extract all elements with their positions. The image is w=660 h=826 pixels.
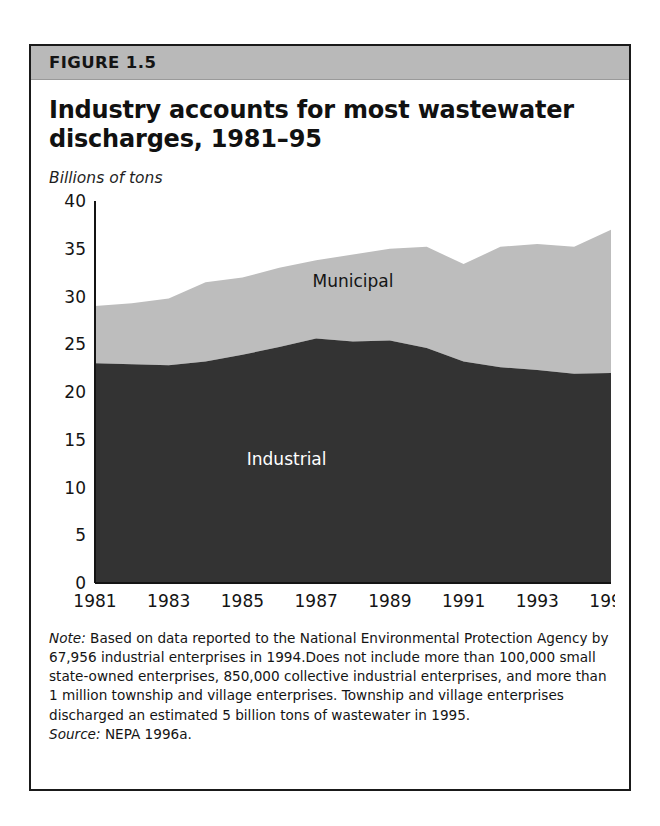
source-paragraph: Source: NEPA 1996a. (49, 725, 611, 744)
series-label-industrial: Industrial (247, 448, 327, 468)
note-body-text: Based on data reported to the National E… (49, 630, 608, 723)
industrial-area (95, 338, 611, 582)
x-tick-label: 1983 (147, 591, 190, 611)
figure-notes: Note: Based on data reported to the Nati… (31, 621, 629, 745)
figure-header-bar: FIGURE 1.5 (31, 46, 629, 80)
x-tick-label: 1993 (516, 591, 559, 611)
x-tick-label: 1987 (295, 591, 338, 611)
y-tick-label: 35 (64, 238, 86, 258)
figure-body: Industry accounts for most wastewater di… (31, 80, 629, 621)
figure-card: FIGURE 1.5 Industry accounts for most wa… (29, 44, 631, 791)
figure-title: Industry accounts for most wastewater di… (49, 96, 611, 155)
x-tick-label: 1981 (73, 591, 116, 611)
source-body-text: NEPA 1996a. (101, 726, 192, 742)
series-label-municipal: Municipal (313, 270, 394, 290)
y-tick-label: 20 (64, 382, 86, 402)
note-paragraph: Note: Based on data reported to the Nati… (49, 629, 611, 725)
x-tick-label: 1991 (442, 591, 485, 611)
y-tick-label: 15 (64, 429, 86, 449)
x-tick-label: 1985 (221, 591, 264, 611)
y-tick-label: 30 (64, 286, 86, 306)
source-lead-label: Source: (49, 726, 101, 742)
x-tick-label: 1989 (368, 591, 411, 611)
y-axis-unit-label: Billions of tons (49, 169, 611, 187)
y-tick-label: 40 (64, 191, 86, 211)
y-tick-label: 25 (64, 334, 86, 354)
stacked-area-chart: 4035302520151050198119831985198719891991… (49, 191, 615, 621)
x-tick-label: 1995 (589, 591, 615, 611)
note-lead-label: Note: (49, 630, 86, 646)
figure-number-label: FIGURE 1.5 (49, 53, 156, 72)
y-tick-label: 10 (64, 477, 86, 497)
y-tick-label: 0 (75, 573, 86, 593)
chart-svg: 4035302520151050198119831985198719891991… (49, 191, 615, 621)
y-tick-label: 5 (75, 525, 86, 545)
